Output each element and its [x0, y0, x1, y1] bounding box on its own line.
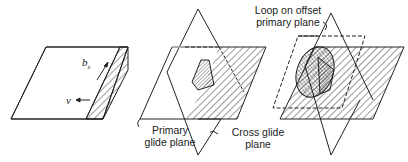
cross-glide-plane-label: Cross glide plane	[226, 126, 290, 150]
panel-c	[273, 13, 404, 155]
burgers-vector-label: bs	[82, 56, 90, 73]
panel-a	[11, 47, 128, 119]
cross-slip-diagram	[0, 0, 408, 162]
loop-offset-plane-label: Loop on offset primary plane	[250, 4, 326, 28]
velocity-label: v	[66, 94, 71, 106]
primary-glide-plane-label: Primary glide plane	[140, 124, 200, 148]
